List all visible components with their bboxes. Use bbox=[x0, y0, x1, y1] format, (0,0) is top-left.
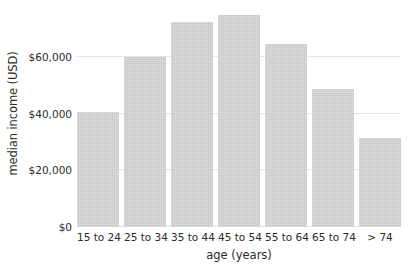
x-tick-label: 45 to 54 bbox=[218, 231, 260, 243]
bar-35-to-44 bbox=[171, 22, 213, 227]
y-tick-label: $40,000 bbox=[12, 109, 72, 119]
x-tick-label: 65 to 74 bbox=[312, 231, 354, 243]
y-axis-tick-labels: $0 $20,000 $40,000 $60,000 bbox=[8, 8, 72, 227]
bar-series bbox=[77, 8, 401, 227]
plot-area bbox=[77, 8, 401, 227]
x-tick-label: > 74 bbox=[359, 231, 401, 243]
bar-15-to-24 bbox=[77, 112, 119, 227]
x-tick-label: 35 to 44 bbox=[171, 231, 213, 243]
bar-45-to-54 bbox=[218, 15, 260, 227]
bar-55-to-64 bbox=[265, 44, 307, 227]
x-tick-label: 15 to 24 bbox=[77, 231, 119, 243]
y-tick-label: $0 bbox=[12, 222, 72, 232]
bar-over-74 bbox=[359, 138, 401, 227]
x-tick-label: 55 to 64 bbox=[265, 231, 307, 243]
bar-25-to-34 bbox=[124, 57, 166, 227]
bar-65-to-74 bbox=[312, 89, 354, 227]
bar-chart: median income (USD) $0 $20,000 $40,000 $… bbox=[0, 0, 411, 272]
x-tick-label: 25 to 34 bbox=[124, 231, 166, 243]
x-axis-tick-labels: 15 to 24 25 to 34 35 to 44 45 to 54 55 t… bbox=[77, 231, 401, 243]
y-tick-label: $20,000 bbox=[12, 165, 72, 175]
x-axis-title: age (years) bbox=[77, 248, 401, 262]
y-tick-label: $60,000 bbox=[12, 52, 72, 62]
